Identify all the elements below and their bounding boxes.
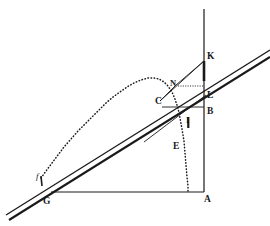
point-label-a: A xyxy=(204,195,211,205)
point-label-f: f xyxy=(36,172,39,181)
ray-n-k xyxy=(176,61,204,85)
figure-root: KNLCBIEGAf xyxy=(0,0,270,226)
point-label-b: B xyxy=(207,107,213,117)
figure-canvas xyxy=(0,0,270,226)
point-label-i: I xyxy=(186,116,189,125)
point-label-l: L xyxy=(207,91,213,101)
point-label-c: C xyxy=(155,97,162,107)
inclined-line-upper xyxy=(6,50,270,215)
tangent-line-through-c xyxy=(144,95,206,142)
point-label-k: K xyxy=(207,52,214,62)
point-label-n: N xyxy=(170,79,176,88)
point-label-g: G xyxy=(43,197,50,207)
point-label-e: E xyxy=(173,142,179,152)
origin-tick-f xyxy=(41,176,42,186)
